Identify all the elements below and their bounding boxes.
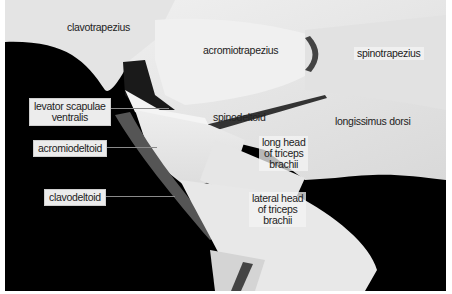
label-spinotrapezius: spinotrapezius [354,47,424,60]
label-acromiotrapezius: acromiotrapezius [203,45,278,56]
label-clavodeltoid: clavodeltoid [44,189,106,206]
label-spinodeltoid: spinodeltoid [213,112,265,123]
label-longissimus-dorsi: longissimus dorsi [335,116,410,127]
label-clavotrapezius: clavotrapezius [67,22,130,33]
label-acromiodeltoid: acromiodeltoid [33,140,107,157]
leader-line-clavodeltoid [95,196,175,197]
anatomy-photo-frame: clavotrapezius acromiotrapezius spinotra… [5,0,446,291]
label-long-head-triceps: long head of triceps brachii [259,136,308,171]
label-levator-scapulae-ventralis: levator scapulae ventralis [29,98,111,126]
label-lateral-head-triceps: lateral head of triceps brachii [249,192,306,227]
